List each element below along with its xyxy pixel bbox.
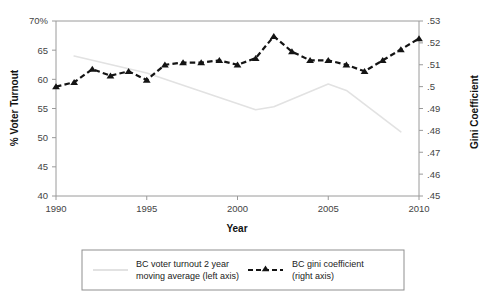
y-tick-label: 55 [37, 103, 48, 114]
x-axis-title: Year [226, 223, 247, 234]
right-axis-ticks: .45.46.47.48.49.5.51.52.53 [419, 15, 440, 201]
y2-tick-label: .45 [427, 190, 440, 201]
y-tick-label: 60 [37, 74, 48, 85]
y2-tick-label: .49 [427, 103, 440, 114]
x-tick-label: 1995 [136, 203, 157, 214]
chart-figure: 40455055606570% .45.46.47.48.49.5.51.52.… [0, 0, 488, 300]
plot-frame [56, 21, 419, 196]
x-axis-ticks: 19901995200020052010 [45, 196, 429, 214]
x-tick-label: 2005 [318, 203, 339, 214]
legend-label-gini-line2: (right axis) [292, 271, 334, 281]
y2-tick-label: .52 [427, 37, 440, 48]
x-tick-label: 2010 [408, 203, 429, 214]
legend-label-voter-turnout-line1: BC voter turnout 2 year [136, 259, 229, 269]
y2-tick-label: .5 [427, 81, 435, 92]
y-axis-title: % Voter Turnout [9, 69, 20, 146]
gini-markers [52, 33, 423, 89]
y2-tick-label: .46 [427, 169, 440, 180]
series-gini [52, 33, 423, 89]
left-axis-ticks: 40455055606570% [29, 15, 56, 201]
axis-spines [56, 21, 419, 196]
gini-marker [88, 66, 96, 72]
y-tick-label: 65 [37, 45, 48, 56]
y-tick-label: 50 [37, 132, 48, 143]
y2-tick-label: .48 [427, 125, 440, 136]
y2-axis-title: Gini Coefficient [469, 74, 480, 149]
y2-tick-label: .47 [427, 147, 440, 158]
x-tick-label: 1990 [45, 203, 66, 214]
legend-label-voter-turnout-line2: moving average (left axis) [136, 271, 239, 281]
legend: BC voter turnout 2 year moving average (… [82, 250, 404, 290]
y2-tick-label: .53 [427, 15, 440, 26]
gini-marker [397, 46, 405, 52]
gini-marker [415, 35, 423, 41]
y2-tick-label: .51 [427, 59, 440, 70]
legend-border [82, 250, 404, 290]
y-tick-label: 40 [37, 190, 48, 201]
legend-label-gini-line1: BC gini coefficient [292, 259, 364, 269]
x-tick-label: 2000 [227, 203, 248, 214]
y-tick-label: 70% [29, 15, 49, 26]
y-tick-label: 45 [37, 161, 48, 172]
gini-marker [270, 33, 278, 39]
